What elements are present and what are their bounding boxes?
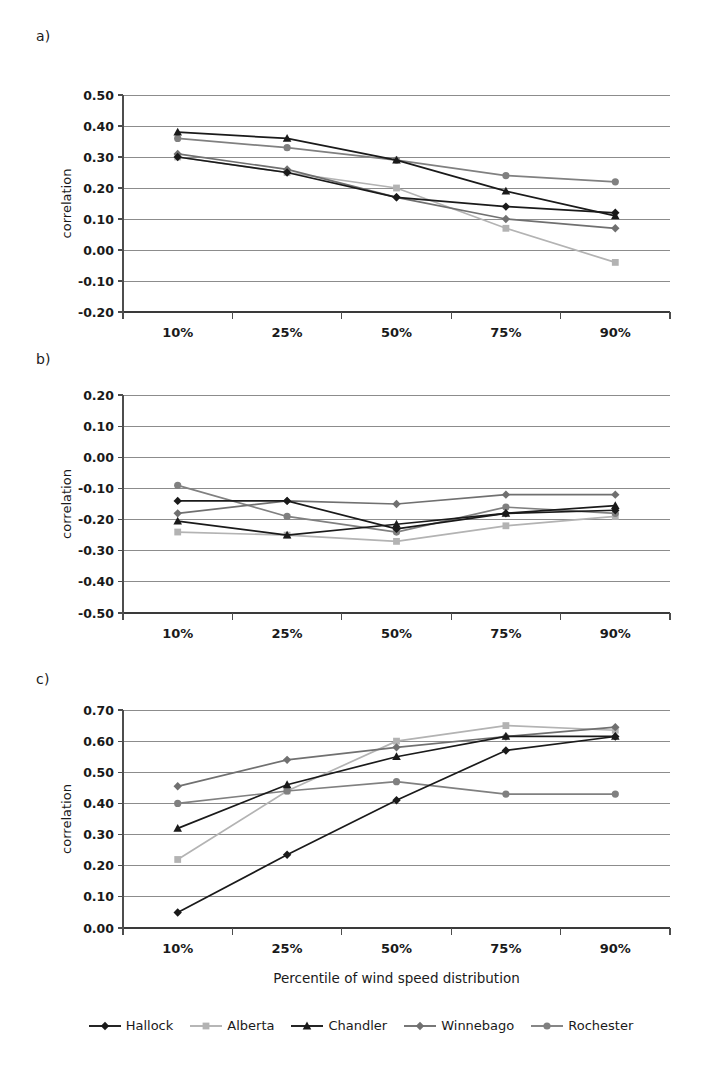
y-axis-title: correlation: [59, 469, 74, 539]
data-point-circle: [544, 1022, 551, 1029]
data-point-diamond: [174, 509, 182, 517]
data-point-circle: [174, 482, 181, 489]
y-tick-label: -0.10: [78, 481, 114, 496]
data-point-square: [503, 522, 510, 529]
panel-a-plot: 0.500.400.300.200.100.00-0.10-0.20correl…: [0, 22, 721, 342]
y-tick-label: -0.20: [78, 512, 114, 527]
y-tick-label: -0.40: [78, 574, 114, 589]
y-tick-label: 0.50: [83, 765, 114, 780]
data-point-circle: [284, 513, 291, 520]
data-point-circle: [502, 790, 509, 797]
legend-label: Chandler: [328, 1018, 387, 1033]
y-tick-label: 0.10: [83, 889, 114, 904]
y-tick-label: 0.40: [83, 119, 114, 134]
legend-item-winnebago: Winnebago: [403, 1018, 514, 1033]
panel-a-svg: 0.500.400.300.200.100.00-0.10-0.20correl…: [0, 22, 721, 342]
y-tick-label: 0.00: [83, 921, 114, 936]
data-point-diamond: [502, 215, 510, 223]
x-tick-label: 75%: [490, 626, 521, 641]
data-point-diamond: [392, 500, 400, 508]
legend-item-rochester: Rochester: [530, 1018, 633, 1033]
legend-item-alberta: Alberta: [189, 1018, 274, 1033]
x-tick-label: 75%: [490, 325, 521, 340]
data-point-diamond: [416, 1021, 424, 1029]
data-point-square: [503, 225, 510, 232]
legend-label: Hallock: [126, 1018, 174, 1033]
data-point-diamond: [100, 1021, 108, 1029]
legend-item-chandler: Chandler: [290, 1018, 387, 1033]
panel-b: b) 0.200.100.00-0.10-0.20-0.30-0.40-0.50…: [0, 345, 721, 663]
panel-b-plot: 0.200.100.00-0.10-0.20-0.30-0.40-0.50cor…: [0, 345, 721, 663]
data-point-diamond: [174, 908, 182, 916]
figure-root: a) 0.500.400.300.200.100.00-0.10-0.20cor…: [0, 0, 721, 1069]
chart-legend: HallockAlbertaChandlerWinnebagoRochester: [0, 1018, 721, 1033]
y-tick-label: -0.30: [78, 543, 114, 558]
y-tick-label: 0.50: [83, 88, 114, 103]
data-point-diamond: [283, 851, 291, 859]
x-axis-title: Percentile of wind speed distribution: [273, 970, 519, 986]
x-tick-label: 10%: [162, 626, 193, 641]
data-point-circle: [612, 178, 619, 185]
x-tick-label: 25%: [272, 626, 303, 641]
data-point-diamond: [502, 202, 510, 210]
legend-label: Winnebago: [441, 1018, 514, 1033]
data-point-circle: [284, 787, 291, 794]
data-point-diamond: [502, 490, 510, 498]
y-tick-label: 0.20: [83, 388, 114, 403]
y-axis-title: correlation: [59, 784, 74, 854]
legend-item-hallock: Hallock: [88, 1018, 174, 1033]
panel-c: c) 0.700.600.500.400.300.200.100.00corre…: [0, 665, 721, 1010]
legend-label: Rochester: [568, 1018, 633, 1033]
data-point-square: [174, 529, 181, 536]
data-point-circle: [612, 790, 619, 797]
x-tick-label: 50%: [381, 325, 412, 340]
data-point-circle: [284, 144, 291, 151]
x-tick-label: 50%: [381, 626, 412, 641]
y-tick-label: 0.60: [83, 734, 114, 749]
y-tick-label: 0.10: [83, 212, 114, 227]
data-point-circle: [174, 135, 181, 142]
data-point-diamond: [174, 782, 182, 790]
x-tick-label: 75%: [490, 941, 521, 956]
panel-c-svg: 0.700.600.500.400.300.200.100.00correlat…: [0, 665, 721, 1010]
x-tick-label: 90%: [600, 626, 631, 641]
data-point-square: [203, 1022, 210, 1029]
y-tick-label: 0.10: [83, 419, 114, 434]
y-tick-label: 0.70: [83, 703, 114, 718]
panel-c-plot: 0.700.600.500.400.300.200.100.00correlat…: [0, 665, 721, 1010]
legend-marker-square-icon: [189, 1019, 223, 1033]
legend-marker-triangle-icon: [290, 1019, 324, 1033]
legend-marker-diamond-icon: [88, 1019, 122, 1033]
data-point-circle: [502, 172, 509, 179]
data-point-square: [393, 185, 400, 192]
legend-marker-diamond-icon: [403, 1019, 437, 1033]
data-point-diamond: [392, 193, 400, 201]
data-point-triangle: [173, 517, 182, 525]
x-tick-label: 10%: [162, 941, 193, 956]
data-point-square: [174, 856, 181, 863]
series-line: [178, 736, 616, 912]
data-point-diamond: [174, 497, 182, 505]
data-point-diamond: [611, 490, 619, 498]
y-tick-label: 0.20: [83, 181, 114, 196]
data-point-square: [393, 538, 400, 545]
y-tick-label: 0.20: [83, 858, 114, 873]
y-tick-label: 0.00: [83, 450, 114, 465]
data-point-diamond: [611, 224, 619, 232]
x-tick-label: 10%: [162, 325, 193, 340]
x-tick-label: 25%: [272, 941, 303, 956]
x-tick-label: 25%: [272, 325, 303, 340]
y-tick-label: 0.40: [83, 796, 114, 811]
legend-label: Alberta: [227, 1018, 274, 1033]
data-point-circle: [393, 778, 400, 785]
data-point-square: [503, 722, 510, 729]
data-point-circle: [174, 800, 181, 807]
panel-b-svg: 0.200.100.00-0.10-0.20-0.30-0.40-0.50cor…: [0, 345, 721, 663]
y-tick-label: 0.30: [83, 827, 114, 842]
y-tick-label: -0.50: [78, 606, 114, 621]
series-chandler: [173, 128, 619, 220]
data-point-diamond: [283, 756, 291, 764]
legend-marker-circle-icon: [530, 1019, 564, 1033]
data-point-square: [612, 259, 619, 266]
x-tick-label: 90%: [600, 941, 631, 956]
